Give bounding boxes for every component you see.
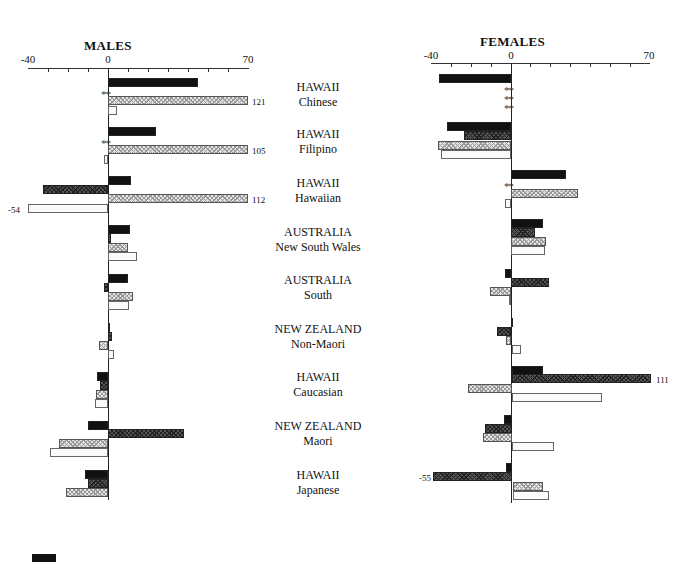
bar bbox=[468, 384, 512, 393]
bar bbox=[497, 327, 511, 336]
bar bbox=[511, 318, 513, 327]
bar bbox=[88, 421, 108, 430]
bar bbox=[438, 141, 511, 150]
bar bbox=[95, 399, 108, 408]
value-label: -54 bbox=[8, 205, 20, 215]
bar bbox=[511, 237, 546, 246]
females-panel-title: FEMALES bbox=[480, 34, 545, 50]
bar bbox=[447, 122, 511, 131]
males-panel-title: MALES bbox=[84, 38, 132, 54]
value-label: 111 bbox=[656, 375, 669, 385]
bar bbox=[108, 234, 111, 243]
bar bbox=[108, 243, 128, 252]
bar bbox=[511, 170, 566, 179]
bar bbox=[108, 106, 117, 115]
bar bbox=[513, 491, 549, 500]
group-label: HAWAIIHawaiian bbox=[238, 176, 398, 206]
bar bbox=[512, 345, 521, 354]
bar bbox=[509, 296, 511, 305]
group-label: HAWAIICaucasian bbox=[238, 370, 398, 400]
males-x-axis bbox=[28, 68, 249, 69]
bar bbox=[512, 442, 554, 451]
males-tick-min: -40 bbox=[21, 53, 36, 65]
bar bbox=[96, 390, 108, 399]
males-tick-max: 70 bbox=[243, 53, 254, 65]
bar bbox=[505, 269, 511, 278]
bar bbox=[85, 470, 108, 479]
bar bbox=[50, 448, 108, 457]
bar bbox=[490, 287, 511, 296]
bar bbox=[511, 189, 578, 198]
bar bbox=[108, 274, 128, 283]
bar bbox=[108, 194, 248, 203]
group-label: NEW ZEALANDNon-Maori bbox=[238, 322, 398, 352]
bar bbox=[100, 381, 108, 390]
group-label: NEW ZEALANDMaori bbox=[238, 419, 398, 449]
females-tick-min: -40 bbox=[424, 49, 439, 61]
bar bbox=[108, 176, 131, 185]
bar bbox=[108, 301, 129, 310]
bar bbox=[511, 278, 549, 287]
bar bbox=[506, 336, 511, 345]
bar bbox=[513, 482, 543, 491]
bar bbox=[504, 415, 512, 424]
females-tick-zero: 0 bbox=[508, 49, 514, 61]
group-label: AUSTRALIANew South Wales bbox=[238, 225, 398, 255]
bar bbox=[439, 74, 511, 83]
group-label: AUSTRALIASouth bbox=[238, 273, 398, 303]
bar bbox=[108, 78, 198, 87]
bar bbox=[99, 341, 108, 350]
bar bbox=[108, 252, 137, 261]
bar bbox=[464, 131, 511, 140]
bar bbox=[104, 155, 108, 164]
bar bbox=[483, 433, 512, 442]
bar bbox=[97, 372, 108, 381]
group-label: HAWAIIChinese bbox=[238, 80, 398, 110]
bar bbox=[511, 219, 543, 228]
group-label: HAWAIIJapanese bbox=[238, 468, 398, 498]
bar bbox=[512, 393, 602, 402]
bar bbox=[511, 246, 545, 255]
bar bbox=[88, 479, 108, 488]
bar bbox=[108, 145, 248, 154]
bar bbox=[505, 199, 511, 208]
significance-marker: ** bbox=[504, 103, 513, 113]
group-label: HAWAIIFilipino bbox=[238, 127, 398, 157]
bar bbox=[66, 488, 108, 497]
bar bbox=[433, 472, 512, 481]
legend-swatch-series-1 bbox=[32, 554, 56, 562]
bar bbox=[108, 96, 248, 105]
bar bbox=[104, 283, 108, 292]
bar bbox=[441, 150, 511, 159]
bar bbox=[28, 204, 108, 213]
bar bbox=[108, 350, 114, 359]
females-tick-max: 70 bbox=[644, 49, 655, 61]
females-x-axis bbox=[431, 63, 650, 64]
value-label: -55 bbox=[419, 473, 431, 483]
bar bbox=[108, 127, 156, 136]
bar bbox=[485, 424, 512, 433]
bar bbox=[108, 429, 184, 438]
bar bbox=[511, 228, 535, 237]
bar bbox=[59, 439, 108, 448]
bar bbox=[108, 225, 130, 234]
bar bbox=[108, 332, 112, 341]
bar bbox=[43, 185, 108, 194]
bar bbox=[108, 292, 133, 301]
males-tick-zero: 0 bbox=[105, 53, 111, 65]
bar bbox=[108, 323, 110, 332]
bar bbox=[506, 463, 512, 472]
bar bbox=[512, 374, 651, 383]
